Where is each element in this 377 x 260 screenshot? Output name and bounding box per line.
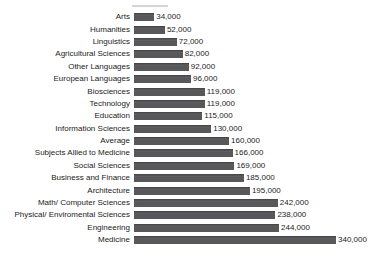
bar bbox=[134, 50, 183, 58]
bar bbox=[134, 26, 165, 34]
bar-zone: 244,000 bbox=[134, 224, 377, 232]
bar-zone: 130,000 bbox=[134, 125, 377, 133]
value-label: 115,000 bbox=[204, 112, 232, 120]
bar bbox=[134, 174, 244, 182]
bar-zone: 169,000 bbox=[134, 162, 377, 170]
category-label: Agricultural Sciences bbox=[0, 50, 134, 58]
bar bbox=[134, 162, 234, 170]
bar-zone: 96,000 bbox=[134, 75, 377, 83]
chart-row: Linguistics72,000 bbox=[0, 36, 377, 48]
chart-row: Math/ Computer Sciences242,000 bbox=[0, 197, 377, 209]
bar-zone: 115,000 bbox=[134, 112, 377, 120]
value-label: 244,000 bbox=[281, 224, 310, 232]
chart-row: Biosciences119,000 bbox=[0, 85, 377, 97]
category-label: Medicine bbox=[0, 236, 134, 244]
chart-row: Physical/ Enviromental Sciences238,000 bbox=[0, 209, 377, 221]
category-label: Math/ Computer Sciences bbox=[0, 199, 134, 207]
chart-row: Engineering244,000 bbox=[0, 222, 377, 234]
category-label: European Languages bbox=[0, 75, 134, 83]
bar-chart: Arts34,000Humanities52,000Linguistics72,… bbox=[0, 0, 377, 260]
value-label: 96,000 bbox=[193, 75, 217, 83]
bar bbox=[134, 125, 211, 133]
value-label: 34,000 bbox=[156, 13, 180, 21]
category-label: Subjects Allied to Medicine bbox=[0, 149, 134, 157]
bar bbox=[134, 63, 189, 71]
chart-row: Social Sciences169,000 bbox=[0, 160, 377, 172]
bar bbox=[134, 149, 233, 157]
category-label: Engineering bbox=[0, 224, 134, 232]
value-label: 160,000 bbox=[231, 137, 260, 145]
category-label: Social Sciences bbox=[0, 162, 134, 170]
bar-chart-rows: Arts34,000Humanities52,000Linguistics72,… bbox=[0, 11, 377, 246]
bar bbox=[134, 38, 177, 46]
bar-zone: 238,000 bbox=[134, 211, 377, 219]
chart-row: Information Sciences130,000 bbox=[0, 123, 377, 135]
chart-row: Arts34,000 bbox=[0, 11, 377, 23]
chart-row: Average160,000 bbox=[0, 135, 377, 147]
bar-zone: 52,000 bbox=[134, 26, 377, 34]
bar-zone: 72,000 bbox=[134, 38, 377, 46]
category-label: Business and Finance bbox=[0, 174, 134, 182]
bar-zone: 166,000 bbox=[134, 149, 377, 157]
bar bbox=[134, 187, 250, 195]
bar bbox=[134, 236, 336, 244]
bar bbox=[134, 199, 278, 207]
bar-zone: 34,000 bbox=[134, 13, 377, 21]
bar bbox=[134, 112, 202, 120]
bar bbox=[134, 137, 229, 145]
chart-row: Humanities52,000 bbox=[0, 23, 377, 35]
value-label: 340,000 bbox=[338, 236, 367, 244]
category-label: Arts bbox=[0, 13, 134, 21]
category-label: Education bbox=[0, 112, 134, 120]
category-label: Average bbox=[0, 137, 134, 145]
value-label: 92,000 bbox=[191, 63, 215, 71]
chart-row: Subjects Allied to Medicine166,000 bbox=[0, 147, 377, 159]
bar bbox=[134, 88, 205, 96]
value-label: 238,000 bbox=[277, 211, 306, 219]
chart-row: Business and Finance185,000 bbox=[0, 172, 377, 184]
chart-row: Other Languages92,000 bbox=[0, 61, 377, 73]
cropped-edge-artifact bbox=[132, 5, 168, 7]
chart-row: European Languages96,000 bbox=[0, 73, 377, 85]
chart-row: Medicine340,000 bbox=[0, 234, 377, 246]
bar-zone: 119,000 bbox=[134, 100, 377, 108]
category-label: Linguistics bbox=[0, 38, 134, 46]
value-label: 82,000 bbox=[185, 50, 209, 58]
bar-zone: 160,000 bbox=[134, 137, 377, 145]
category-label: Biosciences bbox=[0, 88, 134, 96]
value-label: 72,000 bbox=[179, 38, 203, 46]
bar bbox=[134, 100, 205, 108]
category-label: Information Sciences bbox=[0, 125, 134, 133]
value-label: 242,000 bbox=[280, 199, 309, 207]
bar bbox=[134, 224, 279, 232]
bar bbox=[134, 13, 154, 21]
chart-row: Technology119,000 bbox=[0, 98, 377, 110]
bar-zone: 119,000 bbox=[134, 88, 377, 96]
chart-row: Education115,000 bbox=[0, 110, 377, 122]
value-label: 130,000 bbox=[213, 125, 242, 133]
bar bbox=[134, 75, 191, 83]
category-label: Technology bbox=[0, 100, 134, 108]
chart-row: Architecture195,000 bbox=[0, 184, 377, 196]
value-label: 119,000 bbox=[207, 88, 235, 96]
value-label: 195,000 bbox=[252, 187, 281, 195]
bar-zone: 195,000 bbox=[134, 187, 377, 195]
bar-zone: 242,000 bbox=[134, 199, 377, 207]
bar-zone: 92,000 bbox=[134, 63, 377, 71]
category-label: Other Languages bbox=[0, 63, 134, 71]
bar-zone: 340,000 bbox=[134, 236, 377, 244]
category-label: Humanities bbox=[0, 26, 134, 34]
bar-zone: 185,000 bbox=[134, 174, 377, 182]
chart-row: Agricultural Sciences82,000 bbox=[0, 48, 377, 60]
bar-zone: 82,000 bbox=[134, 50, 377, 58]
value-label: 166,000 bbox=[235, 149, 264, 157]
bar bbox=[134, 211, 275, 219]
value-label: 52,000 bbox=[167, 26, 191, 34]
category-label: Physical/ Enviromental Sciences bbox=[0, 211, 134, 219]
value-label: 119,000 bbox=[207, 100, 235, 108]
category-label: Architecture bbox=[0, 187, 134, 195]
value-label: 169,000 bbox=[236, 162, 265, 170]
value-label: 185,000 bbox=[246, 174, 275, 182]
